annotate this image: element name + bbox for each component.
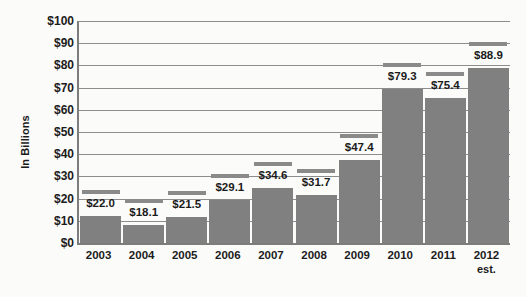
x-axis-tick-label: 2006 [206,248,249,262]
bar-value-label: $47.4 [338,141,381,153]
bar-value-label: $79.3 [381,70,424,82]
y-axis-title: In Billions [14,94,36,190]
bar-group: $34.6 [251,21,294,243]
y-axis-tick-labels: $100$90$80$70$60$50$40$30$20$10$0 [36,21,74,243]
bar [425,98,466,243]
y-axis-tick-label: $70 [54,81,74,95]
bar [209,200,250,243]
x-axis-tick-label: 2011 [422,248,465,262]
bar-value-cap [383,63,421,67]
bar-value-label: $31.7 [295,176,338,188]
bar-group: $79.3 [381,21,424,243]
bar [123,225,164,243]
bar-group: $29.1 [208,21,251,243]
y-axis-tick-label: $10 [54,214,74,228]
bar [468,68,509,243]
bar-value-cap [125,199,163,203]
x-axis-tick-label: 2004 [120,248,163,262]
bar-group: $18.1 [122,21,165,243]
bar-group: $22.0 [79,21,122,243]
plot-area: $22.0$18.1$21.5$29.1$34.6$31.7$47.4$79.3… [77,21,510,245]
bar-value-label: $22.0 [79,197,122,209]
bar [80,216,121,243]
bar-group: $21.5 [165,21,208,243]
bar-value-cap [168,191,206,195]
bar [382,89,423,243]
y-axis-title-label: In Billions [19,115,31,169]
y-axis-tick-label: $100 [47,14,74,28]
bar-value-label: $75.4 [424,79,467,91]
bar [166,217,207,243]
bar-group: $88.9 [467,21,510,243]
y-axis-tick-label: $80 [54,58,74,72]
bar-value-cap [469,42,507,46]
bar-value-cap [297,169,335,173]
y-axis-tick-label: $20 [54,192,74,206]
y-axis-tick-label: $0 [61,236,74,250]
bar-group: $31.7 [295,21,338,243]
x-axis-tick-label: 2010 [379,248,422,262]
bar [339,160,380,243]
x-axis-tick-labels: 2003200420052006200720082009201020112012… [77,248,508,292]
bar-value-cap [254,162,292,166]
y-axis-tick-label: $30 [54,169,74,183]
bar-value-cap [340,134,378,138]
bar-value-label: $18.1 [122,206,165,218]
bar [296,195,337,243]
bar-group: $47.4 [338,21,381,243]
y-axis-tick-label: $40 [54,147,74,161]
y-axis-tick-label: $60 [54,103,74,117]
x-axis-tick-label: 2007 [249,248,292,262]
x-axis-tick-label: 2009 [336,248,379,262]
bar-value-label: $34.6 [251,169,294,181]
y-axis-tick-label: $90 [54,36,74,50]
bar-value-cap [82,190,120,194]
x-axis-tick-sublabel: est. [465,262,508,276]
bar-group: $75.4 [424,21,467,243]
bars-layer: $22.0$18.1$21.5$29.1$34.6$31.7$47.4$79.3… [79,21,510,243]
bar-value-label: $29.1 [208,181,251,193]
x-axis-tick-label: 2008 [293,248,336,262]
bar-value-cap [426,72,464,76]
x-axis-tick-label: 2003 [77,248,120,262]
bar-value-label: $21.5 [165,198,208,210]
bar-chart: In Billions $100$90$80$70$60$50$40$30$20… [0,0,526,297]
x-axis-tick-label: 2005 [163,248,206,262]
x-axis-tick-label: 2012est. [465,248,508,276]
bar-value-cap [211,174,249,178]
bar [252,188,293,243]
bar-value-label: $88.9 [467,49,510,61]
y-axis-tick-label: $50 [54,125,74,139]
